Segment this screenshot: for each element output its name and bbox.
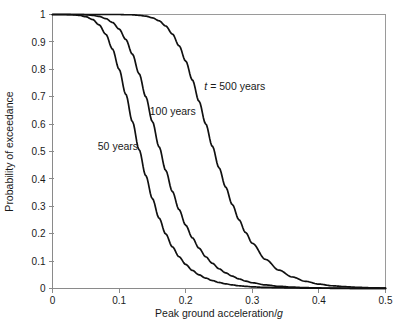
x-axis-title: Peak ground acceleration/g (155, 307, 283, 319)
x-tick-label: 0.4 (312, 295, 326, 306)
series-label-500-years: t = 500 years (204, 80, 265, 92)
y-tick-label: 0.6 (32, 119, 46, 130)
y-tick-label: 0 (40, 283, 46, 294)
x-tick-label: 0.3 (245, 295, 259, 306)
y-tick-label: 1 (40, 9, 46, 20)
x-tick-label: 0.5 (379, 295, 393, 306)
x-tick-label: 0.2 (179, 295, 193, 306)
x-tick-label: 0 (50, 295, 56, 306)
x-tick-label: 0.1 (112, 295, 126, 306)
series-label-100-years: 100 years (150, 105, 196, 117)
y-tick-label: 0.8 (32, 64, 46, 75)
y-tick-label: 0.9 (32, 37, 46, 48)
y-axis-ticks: 00.10.20.30.40.50.60.70.80.91 (32, 9, 54, 294)
y-tick-label: 0.3 (32, 201, 46, 212)
y-tick-label: 0.7 (32, 91, 46, 102)
x-axis-ticks: 00.10.20.30.40.5 (50, 288, 393, 306)
chart-figure: 00.10.20.30.40.50.60.70.80.91 00.10.20.3… (0, 0, 403, 324)
y-tick-label: 0.5 (32, 146, 46, 157)
y-tick-label: 0.4 (32, 174, 46, 185)
y-axis-title: Probability of exceedance (3, 91, 15, 211)
series-annotations: 50 years100 yearst = 500 years (98, 80, 266, 152)
y-tick-label: 0.2 (32, 228, 46, 239)
exceedance-probability-chart: 00.10.20.30.40.50.60.70.80.91 00.10.20.3… (0, 0, 403, 324)
y-tick-label: 0.1 (32, 256, 46, 267)
series-label-50-years: 50 years (98, 140, 138, 152)
